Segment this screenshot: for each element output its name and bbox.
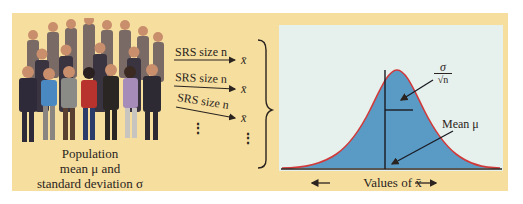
ellipsis-samples: ⋮ [191, 125, 205, 132]
brace [258, 40, 272, 168]
sample-mean-2: x̄ [241, 82, 246, 97]
sample-mean-1: x̄ [241, 53, 246, 68]
diagram-graphics [0, 0, 523, 204]
sample-label-1: SRS size n [175, 45, 227, 60]
sample-label-2: SRS size n [175, 70, 228, 87]
sample-mean-3: x̄ [241, 111, 246, 126]
std-annotation: σ √n [434, 61, 452, 86]
x-axis-label: Values of x̄ [300, 175, 485, 191]
mean-annotation: Mean μ [442, 117, 479, 132]
ellipsis-means: ⋮ [241, 135, 255, 142]
